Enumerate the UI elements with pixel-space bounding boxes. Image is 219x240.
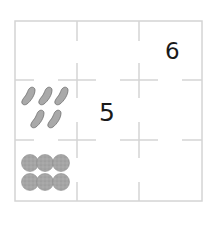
bean-icon xyxy=(31,110,44,128)
bean-icon xyxy=(39,87,52,105)
bean-icon xyxy=(22,87,35,105)
cookie-icon xyxy=(22,155,39,172)
cookie-icon xyxy=(22,174,39,191)
cookie-icon xyxy=(53,155,70,172)
cookie-icon xyxy=(53,174,70,191)
beans-group xyxy=(22,87,68,128)
cookie-icon xyxy=(37,155,54,172)
number-five: 5 xyxy=(99,100,115,125)
bean-icon xyxy=(48,110,61,128)
number-six: 6 xyxy=(165,40,180,63)
cookie-icon xyxy=(37,174,54,191)
cookies-group xyxy=(22,155,70,191)
bean-icon xyxy=(55,87,68,105)
